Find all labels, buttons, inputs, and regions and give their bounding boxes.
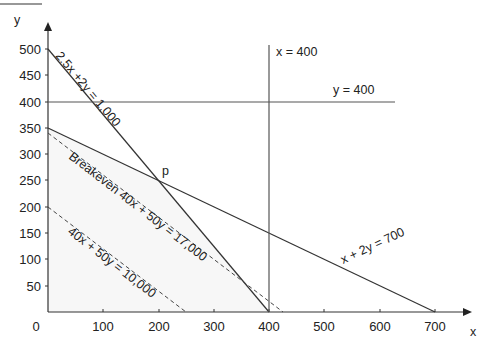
svg-text:100: 100 [92,319,114,334]
svg-text:600: 600 [369,319,391,334]
y-tick-labels: 500 450 400 350 300 250 200 150 100 50 [19,42,41,294]
lp-chart: 500 450 400 350 300 250 200 150 100 50 0… [0,0,486,347]
label-2-5x-2y-1000: 2.5x +2y = 1,000 [53,49,124,129]
svg-text:500: 500 [19,42,41,57]
svg-text:0: 0 [32,319,39,334]
x-tick-labels: 0 100 200 300 400 500 600 700 [32,319,445,334]
y-axis-arrow-icon [44,22,52,31]
svg-text:300: 300 [203,319,225,334]
svg-text:400: 400 [258,319,280,334]
svg-text:700: 700 [424,319,446,334]
svg-text:300: 300 [19,147,41,162]
point-p-label: p [162,164,169,178]
svg-text:400: 400 [19,95,41,110]
label-y-400: y = 400 [333,83,374,97]
y-axis-label: y [14,13,21,27]
svg-text:100: 100 [19,252,41,267]
svg-text:150: 150 [19,226,41,241]
label-x-400: x = 400 [276,45,317,59]
svg-text:500: 500 [313,319,335,334]
x-axis-arrow-icon [463,308,472,316]
svg-text:450: 450 [19,68,41,83]
svg-text:250: 250 [19,173,41,188]
svg-text:200: 200 [148,319,170,334]
svg-text:350: 350 [19,121,41,136]
svg-text:200: 200 [19,200,41,215]
svg-text:50: 50 [27,279,41,294]
label-x-2y-700: x + 2y = 700 [338,225,406,267]
x-axis-label: x [470,325,477,339]
